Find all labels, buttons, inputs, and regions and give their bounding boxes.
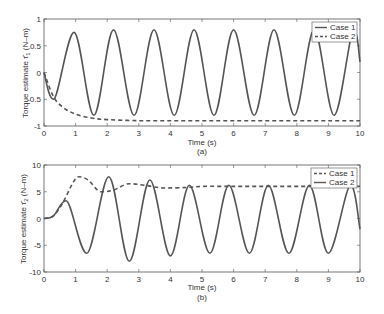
x-tick-label: 2 bbox=[105, 129, 110, 138]
y-tick-label: 0 bbox=[37, 215, 42, 224]
y-tick-label: -5 bbox=[34, 241, 42, 250]
y-tick-label: 0.5 bbox=[30, 42, 42, 51]
legend-label-case2: Case 2 bbox=[329, 178, 355, 187]
y-tick-label: 5 bbox=[37, 188, 42, 197]
legend-a: Case 1 Case 2 bbox=[312, 22, 357, 42]
x-tick-label: 8 bbox=[295, 275, 300, 284]
x-tick-label: 2 bbox=[105, 275, 110, 284]
x-tick-label: 9 bbox=[326, 129, 331, 138]
x-tick-label: 0 bbox=[42, 275, 47, 284]
x-tick-label: 5 bbox=[200, 129, 205, 138]
legend-b: Case 1 Case 2 bbox=[311, 168, 357, 188]
legend-label-case2: Case 2 bbox=[330, 32, 356, 41]
x-axis-label-a: Time (s) bbox=[187, 138, 216, 147]
x-tick-label: 7 bbox=[263, 129, 268, 138]
x-tick-label: 3 bbox=[137, 129, 142, 138]
figure: 012345678910-1-0.500.51 Case 1 Case 2 Ti… bbox=[0, 0, 384, 314]
legend-label-case1: Case 1 bbox=[329, 169, 355, 178]
x-tick-label: 7 bbox=[263, 275, 268, 284]
x-tick-label: 10 bbox=[356, 275, 365, 284]
x-tick-label: 10 bbox=[356, 129, 365, 138]
x-tick-label: 1 bbox=[73, 275, 78, 284]
y-tick-label: -10 bbox=[29, 268, 41, 277]
y-axis-label-b: Torque estimate τ̂2 (N–m) bbox=[19, 174, 29, 264]
x-tick-label: 9 bbox=[326, 275, 331, 284]
x-tick-label: 1 bbox=[73, 129, 78, 138]
y-tick-label: -1 bbox=[34, 122, 42, 131]
x-axis-label-b: Time (s) bbox=[187, 283, 216, 292]
legend-label-case1: Case 1 bbox=[330, 23, 356, 32]
panel-label-b: (b) bbox=[197, 293, 207, 302]
y-axis-label-a: Torque estimate τ̂1 (N–m) bbox=[21, 28, 31, 118]
x-tick-label: 3 bbox=[137, 275, 142, 284]
chart-panel-b: 012345678910-10-50510 Case 1 Case 2 Time… bbox=[19, 161, 365, 302]
x-tick-label: 6 bbox=[231, 275, 236, 284]
panel-label-a: (a) bbox=[197, 147, 207, 156]
x-tick-label: 0 bbox=[42, 129, 47, 138]
y-tick-label: 1 bbox=[37, 15, 42, 24]
x-tick-label: 4 bbox=[168, 275, 173, 284]
chart-panel-a: 012345678910-1-0.500.51 Case 1 Case 2 Ti… bbox=[21, 15, 365, 156]
y-tick-label: 0 bbox=[37, 69, 42, 78]
x-tick-label: 8 bbox=[295, 129, 300, 138]
y-tick-label: 10 bbox=[32, 161, 41, 170]
x-tick-label: 6 bbox=[231, 129, 236, 138]
x-tick-label: 4 bbox=[168, 129, 173, 138]
